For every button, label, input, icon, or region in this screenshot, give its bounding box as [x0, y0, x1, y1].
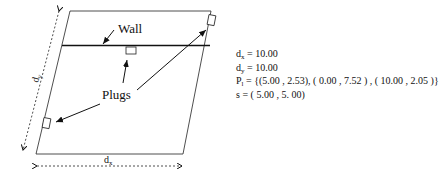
- plug-left: [42, 118, 51, 129]
- plugs-arrow-top-right: [137, 30, 206, 90]
- plugs-arrow-center: [123, 60, 127, 83]
- plug-center: [126, 47, 136, 54]
- param-dx: dx = 10.00: [236, 49, 439, 63]
- dim-x-label: dx: [104, 154, 113, 167]
- parameters-panel: dx = 10.00 dy = 10.00 Pl = {(5.00 , 2.53…: [236, 49, 439, 100]
- param-plugs: Pl = {(5.00 , 2.53), ( 0.00 , 7.52 ) , (…: [236, 76, 439, 90]
- plugs-label: Plugs: [102, 87, 131, 102]
- plug-top-right: [207, 15, 216, 26]
- wall-label: Wall: [118, 21, 143, 36]
- param-dy: dy = 10.00: [236, 63, 439, 77]
- dim-y-label: dy: [29, 72, 44, 84]
- param-s: s = ( 5.00 , 5. 00): [236, 90, 439, 101]
- plugs-arrow-left: [56, 104, 100, 122]
- wall-arrow: [103, 30, 114, 44]
